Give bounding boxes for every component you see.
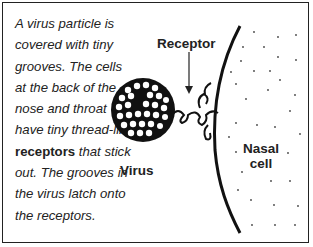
virus-label: Virus	[120, 163, 154, 178]
receptor-threads-icon	[172, 83, 218, 139]
cytoplasm-dots-icon	[228, 31, 301, 226]
nasal-cell-label: Nasalcell	[243, 141, 279, 171]
virus-particle-icon	[111, 78, 175, 142]
cell-membrane-icon	[214, 26, 240, 233]
receptor-label: Receptor	[157, 36, 216, 51]
